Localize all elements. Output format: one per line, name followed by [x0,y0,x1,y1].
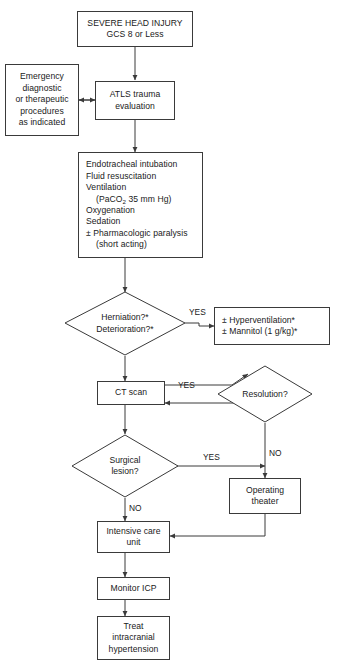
severe-head-injury-line-1: SEVERE HEAD INJURY [78,18,192,29]
operating-line-1: Operating [230,485,300,496]
treat-line-2: intracranial [98,632,169,643]
emergency-line-2: diagnostic [6,83,78,94]
edge-label-no-surgical: NO [129,503,142,513]
atls-line-1: ATLS trauma [96,89,174,100]
initial-management-text: Endotracheal intubation Fluid resuscitat… [79,159,202,250]
treat-line-3: hypertension [98,644,169,655]
treat-line-1: Treat [98,621,169,632]
initial-line-7: ± Pharmacologic paralysis [86,228,202,239]
hyperventilation-text: ± Hyperventilation* ± Mannitol (1 g/kg)* [215,315,329,338]
initial-line-3: Ventilation [86,182,202,193]
paco2-subscript: 2 [123,198,127,205]
treat-text: Treat intracranial hypertension [98,621,169,655]
node-intensive-care-unit[interactable]: Intensive care unit [97,521,170,553]
atls-text: ATLS trauma evaluation [96,89,174,112]
severe-head-injury-line-2: GCS 8 or Less [78,29,192,40]
initial-line-6: Sedation [86,216,202,227]
node-hyperventilation-mannitol[interactable]: ± Hyperventilation* ± Mannitol (1 g/kg)* [214,307,330,345]
icu-text: Intensive care unit [98,526,169,549]
node-emergency-procedures[interactable]: Emergency diagnostic or therapeutic proc… [5,64,79,136]
resolution-diamond-shape [218,366,312,422]
initial-line-4: (PaCO2 35 mm Hg) [86,194,202,205]
severe-head-injury-text: SEVERE HEAD INJURY GCS 8 or Less [78,18,192,41]
initial-line-8: (short acting) [86,239,202,250]
icu-line-1: Intensive care [98,526,169,537]
emergency-line-1: Emergency [6,71,78,82]
icu-line-2: unit [98,537,169,548]
operating-theater-text: Operating theater [230,485,300,508]
node-atls-trauma-evaluation[interactable]: ATLS trauma evaluation [95,81,175,120]
emergency-procedures-text: Emergency diagnostic or therapeutic proc… [6,71,78,128]
paco2-prefix: (PaCO [96,194,123,204]
node-initial-management[interactable]: Endotracheal intubation Fluid resuscitat… [78,152,203,258]
node-treat-intracranial-hypertension[interactable]: Treat intracranial hypertension [97,616,170,660]
operating-line-2: theater [230,496,300,507]
edge-label-yes-ct-resolution: YES [178,380,195,390]
ct-scan-text: CT scan [98,387,164,398]
emergency-line-3: or therapeutic [6,94,78,105]
monitor-icp-text: Monitor ICP [98,583,169,594]
monitor-icp-line-1: Monitor ICP [98,583,169,594]
herniation-diamond-shape [65,292,185,355]
node-ct-scan[interactable]: CT scan [97,381,165,405]
edge-label-yes-herniation: YES [189,307,206,317]
edge-label-yes-surgical: YES [203,452,220,462]
emergency-line-4: procedures [6,106,78,117]
hyperventilation-line-2: ± Mannitol (1 g/kg)* [222,326,329,337]
hyperventilation-line-1: ± Hyperventilation* [222,315,329,326]
node-severe-head-injury[interactable]: SEVERE HEAD INJURY GCS 8 or Less [77,11,193,47]
initial-line-2: Fluid resuscitation [86,171,202,182]
node-operating-theater[interactable]: Operating theater [229,478,301,514]
paco2-suffix: 35 mm Hg) [126,194,171,204]
surgical-diamond-shape [72,435,178,497]
emergency-line-5: as indicated [6,117,78,128]
flowchart-canvas: SEVERE HEAD INJURY GCS 8 or Less Emergen… [0,0,339,665]
edge-operating-to-icu [170,514,265,536]
edge-label-no-resolution: NO [269,448,282,458]
node-monitor-icp[interactable]: Monitor ICP [97,577,170,600]
initial-line-1: Endotracheal intubation [86,159,202,170]
edge-herniation-yes [185,323,214,326]
ct-scan-line-1: CT scan [98,387,164,398]
initial-line-5: Oxygenation [86,205,202,216]
atls-line-2: evaluation [96,101,174,112]
